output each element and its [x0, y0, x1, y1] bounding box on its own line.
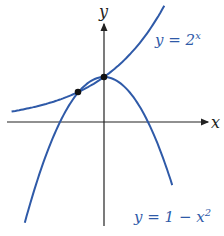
- exp-curve: [12, 6, 165, 112]
- intersection-point: [75, 89, 82, 96]
- parabola-curve: [25, 77, 172, 223]
- graph: x y y = 2x y = 1 − x2: [0, 0, 224, 236]
- x-axis-label: x: [211, 113, 220, 132]
- y-axis-label: y: [98, 2, 109, 21]
- parabola-curve-label: y = 1 − x2: [133, 207, 211, 226]
- intersection-point: [101, 74, 108, 81]
- exp-curve-label: y = 2x: [154, 30, 201, 49]
